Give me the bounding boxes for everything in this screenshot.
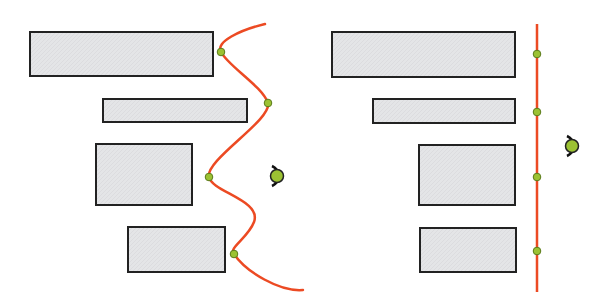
fixation-dot: [217, 48, 225, 56]
fixation-dot: [533, 50, 541, 58]
fixation-dot: [205, 173, 213, 181]
text-block: [103, 99, 247, 122]
alignment-diagram: [0, 0, 610, 303]
text-block: [96, 144, 192, 205]
text-block: [332, 32, 515, 77]
fixation-dot: [230, 250, 238, 258]
fixation-dot: [264, 99, 272, 107]
text-block: [419, 145, 515, 205]
text-block: [373, 99, 515, 123]
left-panel-curved-scan: [30, 24, 303, 290]
text-block: [128, 227, 225, 272]
text-block: [420, 228, 516, 272]
fixation-dot: [533, 108, 541, 116]
eye-icon: [566, 136, 579, 156]
right-panel-straight-scan: [332, 24, 579, 292]
fixation-dot: [533, 247, 541, 255]
eye-icon: [271, 166, 284, 186]
fixation-dot: [533, 173, 541, 181]
text-block: [30, 32, 213, 76]
